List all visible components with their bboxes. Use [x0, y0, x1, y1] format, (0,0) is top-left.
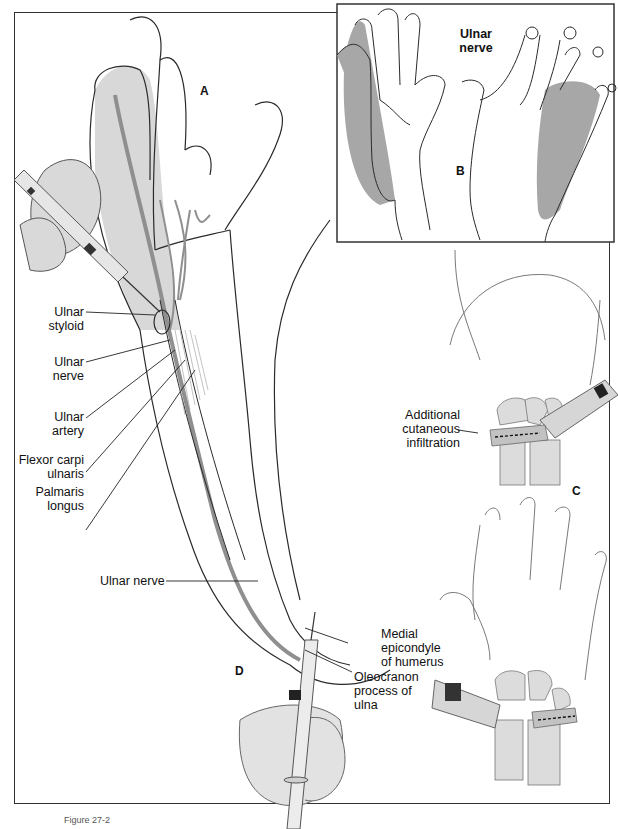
label-flexor-carpi-ulnaris: Flexor carpi ulnaris	[10, 453, 84, 481]
label-palmaris-longus: Palmaris longus	[22, 485, 84, 513]
panel-d-letter: D	[235, 664, 244, 678]
label-ulnar-styloid: Ulnar styloid	[22, 305, 84, 333]
label-medial-epicondyle: Medial epicondyle of humerus	[381, 627, 444, 669]
inset-b-title-line1: Ulnar	[446, 27, 506, 41]
hand-c-illustration	[450, 250, 605, 385]
label-ulnar-artery: Ulnar artery	[22, 410, 84, 438]
label-additional-cutaneous-infiltration: Additional cutaneous infiltration	[388, 408, 460, 450]
illustration	[0, 0, 618, 829]
figure-caption: Figure 27-2	[64, 815, 110, 825]
panel-c-letter: C	[572, 484, 581, 498]
label-ulnar-nerve-elbow: Ulnar nerve	[100, 574, 165, 588]
hand-d-right-illustration	[440, 498, 606, 681]
hand-d-holding-syringe	[239, 612, 345, 829]
inset-b-title-line2: nerve	[446, 41, 506, 55]
label-olecranon: Oleocranon process of ulna	[354, 670, 419, 712]
inset-b-title: Ulnar nerve	[446, 27, 506, 55]
leader-lines	[86, 312, 478, 672]
label-ulnar-nerve: Ulnar nerve	[22, 355, 84, 383]
panel-b-letter: B	[456, 164, 465, 178]
carpal-bones-d	[495, 671, 570, 785]
panel-a-letter: A	[200, 84, 209, 98]
